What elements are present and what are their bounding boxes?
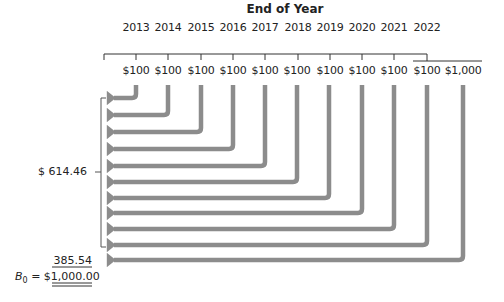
bond-value-symbol: B — [15, 270, 23, 283]
coupon-pv-total: $ 614.46 — [38, 165, 87, 178]
equals-sign: = — [31, 270, 40, 283]
coupon-pv-bracket — [95, 98, 106, 247]
principal-pv-value: 385.54 — [54, 254, 93, 267]
timeline-axis — [104, 54, 482, 61]
bond-value-row: B0 = $1,000.00 — [15, 270, 100, 285]
bond-value-subscript: 0 — [23, 276, 28, 285]
bond-value-total: $1,000.00 — [44, 270, 100, 283]
discount-arrows — [114, 85, 463, 260]
